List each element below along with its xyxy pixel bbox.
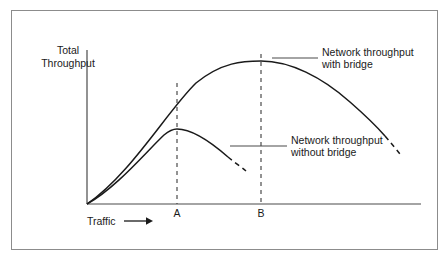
annotation-with-bridge-line1: Network throughput xyxy=(322,46,414,58)
x-tick-label-a: A xyxy=(167,207,187,219)
annotation-without-bridge: Network throughputwithout bridge xyxy=(291,134,383,159)
curve-with-bridge-tail xyxy=(385,136,400,154)
y-axis-label-line1: Total xyxy=(57,44,79,56)
curve-with-bridge xyxy=(87,61,385,204)
arrow-right-icon xyxy=(124,217,153,225)
annotation-with-bridge: Network throughputwith bridge xyxy=(322,46,414,71)
annotation-with-bridge-line2: with bridge xyxy=(322,58,373,70)
y-axis-label-line2: Throughput xyxy=(41,57,95,69)
annotation-without-bridge-line2: without bridge xyxy=(291,146,356,158)
annotation-without-bridge-line1: Network throughput xyxy=(291,134,383,146)
x-axis-label: Traffic xyxy=(87,215,116,228)
figure-root: TotalThroughput Traffic A B Network thro… xyxy=(0,0,447,267)
x-tick-label-b: B xyxy=(251,207,271,219)
curve-without-bridge-tail xyxy=(228,157,246,171)
curve-without-bridge xyxy=(87,129,228,204)
y-axis-label: TotalThroughput xyxy=(30,44,106,69)
x-axis-label-text: Traffic xyxy=(87,215,116,227)
